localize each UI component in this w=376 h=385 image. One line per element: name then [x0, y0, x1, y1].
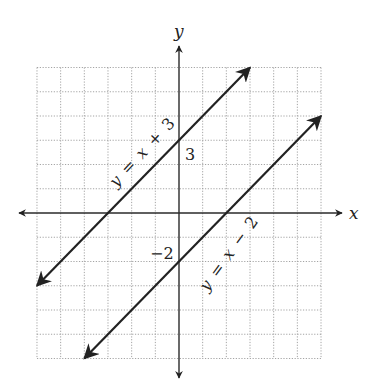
intercept-label-neg2: −2 [150, 244, 174, 263]
y-axis-label: y [173, 21, 184, 41]
intercept-label-3: 3 [185, 145, 195, 164]
x-axis-label: x [349, 203, 359, 223]
equation-label-line2: y = x − 2 [195, 213, 262, 296]
svg-text:y = x −: y = x − 2 [195, 213, 262, 296]
coordinate-plane: x y 3 −2 y = x + 3 y = x − 2 [0, 0, 376, 385]
